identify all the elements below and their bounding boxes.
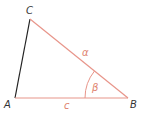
- side-label-c: c: [64, 100, 70, 111]
- vertex-label-c: C: [26, 5, 33, 16]
- side-a: [30, 19, 128, 98]
- vertex-label-a: A: [3, 99, 11, 110]
- side-b: [15, 19, 30, 98]
- angle-label-beta: β: [91, 82, 99, 93]
- vertex-label-b: B: [130, 99, 137, 110]
- side-label-a: α: [82, 47, 89, 58]
- triangle-diagram: C A B α c β: [0, 0, 144, 114]
